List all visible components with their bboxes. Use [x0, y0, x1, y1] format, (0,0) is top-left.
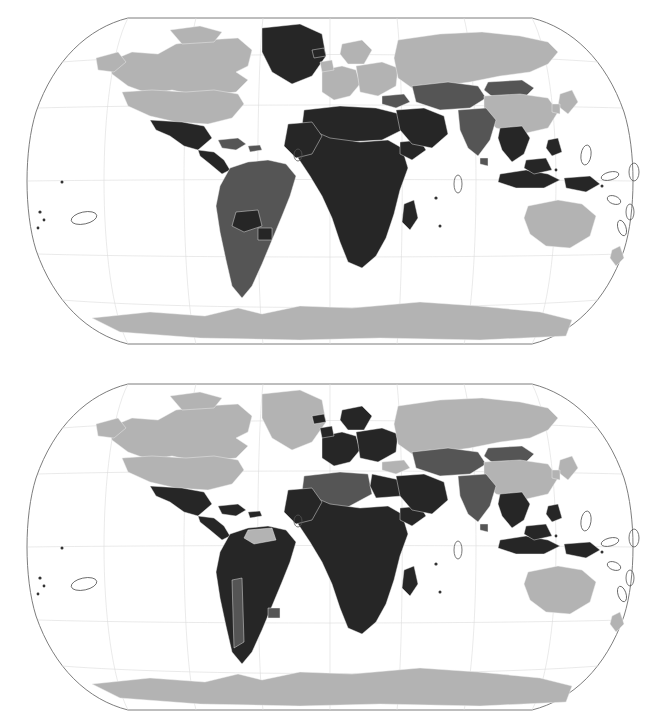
island-dot [38, 576, 41, 579]
world-map-figure [0, 0, 660, 725]
region-paraguay[interactable] [258, 228, 272, 240]
map-panel-bottom[interactable] [0, 362, 660, 725]
island-dot [434, 562, 437, 565]
map-panel-top[interactable] [0, 0, 660, 362]
world-map-svg-bottom[interactable] [0, 362, 660, 725]
region-iceland[interactable] [312, 48, 326, 58]
island-dot [38, 210, 41, 213]
island-dot [37, 227, 40, 230]
island-dot [37, 593, 40, 596]
island-dot [601, 551, 604, 554]
region-uruguay[interactable] [268, 608, 280, 618]
island-dot [61, 547, 64, 550]
region-british-isles[interactable] [320, 60, 334, 72]
island-dot [555, 535, 558, 538]
island-dot [555, 169, 558, 172]
region-korea[interactable] [552, 470, 560, 480]
region-korea[interactable] [552, 104, 560, 114]
island-dot [439, 225, 442, 228]
region-chile[interactable] [232, 578, 244, 648]
world-map-svg-top[interactable] [0, 0, 660, 362]
island-dot [61, 181, 64, 184]
island-dot [434, 196, 437, 199]
island-dot [439, 591, 442, 594]
island-dot [43, 585, 46, 588]
region-iceland[interactable] [312, 414, 326, 424]
region-british-isles[interactable] [320, 426, 334, 438]
island-dot [601, 185, 604, 188]
island-dot [43, 219, 46, 222]
